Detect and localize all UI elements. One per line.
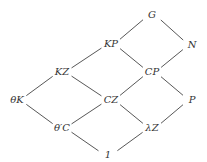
- edge-CP-CZ: [120, 77, 143, 96]
- edge-thetaK-thetaPrimeC: [26, 104, 52, 123]
- node-CP: CP: [145, 67, 159, 77]
- edge-KP-KZ: [72, 48, 102, 68]
- node-G: G: [148, 10, 156, 20]
- node-one: 1: [105, 150, 111, 160]
- edge-CP-P: [161, 77, 183, 96]
- node-KP: KP: [104, 39, 118, 49]
- node-CZ: CZ: [104, 95, 119, 105]
- edge-CZ-thetaPrimeC: [72, 104, 102, 124]
- node-N: N: [188, 40, 197, 50]
- edge-G-KP: [120, 20, 143, 39]
- edge-N-CP: [161, 50, 183, 68]
- node-thetaK: θK: [10, 95, 24, 105]
- edge-KZ-CZ: [72, 76, 102, 96]
- node-lambdaZ: λZ: [145, 123, 158, 133]
- edge-lambdaZ-one: [117, 132, 142, 150]
- lattice-diagram: G KP N KZ CP θK CZ P θ′C λZ 1: [0, 0, 207, 162]
- edge-thetaPrimeC-one: [71, 132, 98, 151]
- edge-layer: [0, 0, 207, 162]
- edge-KP-CP: [120, 49, 143, 68]
- node-thetaPrimeC: θ′C: [54, 123, 70, 133]
- node-P: P: [189, 95, 196, 105]
- edge-G-N: [161, 20, 183, 40]
- node-KZ: KZ: [55, 67, 69, 77]
- edge-CZ-lambdaZ: [120, 105, 143, 124]
- edge-KZ-thetaK: [26, 76, 52, 95]
- edge-P-lambdaZ: [161, 105, 183, 124]
